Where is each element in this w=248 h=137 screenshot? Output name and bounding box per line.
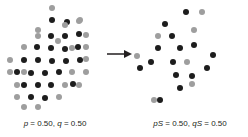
scatter-dot: [49, 17, 55, 23]
scatter-dot: [21, 82, 27, 88]
scatter-dot: [148, 59, 154, 65]
scatter-dot: [62, 82, 68, 88]
scatter-dot: [75, 44, 81, 50]
scatter-dot: [76, 31, 82, 37]
panel-after-selection: pS = 0.50, qS = 0.50: [132, 0, 248, 137]
caption-before-value-q: = 0.50: [62, 119, 87, 128]
scatter-dot: [76, 82, 82, 88]
scatter-dot: [21, 57, 27, 63]
scatter-dot: [210, 52, 216, 58]
scatter-dot: [69, 45, 75, 51]
scatter-dot: [177, 85, 183, 91]
scatter-dot: [134, 53, 140, 59]
scatter-dot: [56, 94, 62, 100]
scatter-dot: [14, 82, 20, 88]
caption-after: pS = 0.50, qS = 0.50: [132, 119, 248, 129]
caption-after-value-qs: = 0.50: [202, 119, 227, 128]
scatter-dot: [183, 9, 189, 15]
scatter-dot: [189, 73, 195, 79]
scatter-dot: [189, 81, 195, 87]
scatter-dot: [76, 18, 82, 24]
scatter-dot: [34, 44, 40, 50]
caption-before: p = 0.50, q = 0.50: [0, 119, 110, 129]
scatter-dot: [83, 56, 89, 62]
scatter-dot: [49, 5, 55, 11]
scatter-dot: [63, 58, 69, 64]
scatter-dot: [191, 27, 197, 33]
scatter-dot: [48, 82, 54, 88]
scatter-dot: [157, 97, 163, 103]
scatter-dot: [35, 82, 41, 88]
scatter-dot: [173, 72, 179, 78]
scatter-dot: [155, 33, 161, 39]
scatter-dot: [35, 104, 41, 110]
scatter-dot: [35, 57, 41, 63]
scatter-dot: [21, 104, 27, 110]
scatter-dot: [83, 32, 89, 38]
scatter-dot: [184, 59, 190, 65]
scatter-dot: [62, 46, 68, 52]
scatter-dot: [55, 38, 61, 44]
scatter-dot: [199, 9, 205, 15]
scatter-dot: [21, 69, 27, 75]
scatter-dot: [177, 45, 183, 51]
scatter-dot: [69, 69, 75, 75]
caption-before-value-p: = 0.50,: [28, 119, 57, 128]
scatter-dot: [21, 44, 27, 50]
scatter-dot: [28, 70, 34, 76]
scatter-dot: [155, 45, 161, 51]
dot-field-after: [132, 0, 248, 115]
scatter-dot: [35, 33, 41, 39]
scatter-dot: [162, 21, 168, 27]
scatter-dot: [191, 42, 197, 48]
scatter-dot: [49, 58, 55, 64]
scatter-dot: [204, 65, 210, 71]
scatter-dot: [28, 94, 34, 100]
scatter-dot: [83, 44, 89, 50]
scatter-dot: [14, 69, 20, 75]
right-arrow-icon: [106, 46, 134, 62]
population-allele-frequency-figure: p = 0.50, q = 0.50 pS = 0.50, qS = 0.50: [0, 0, 248, 137]
caption-after-symbol-ps: pS: [153, 119, 163, 128]
scatter-dot: [83, 69, 89, 75]
scatter-dot: [62, 33, 68, 39]
scatter-dot: [14, 94, 20, 100]
scatter-dot: [169, 33, 175, 39]
scatter-dot: [170, 59, 176, 65]
scatter-dot: [151, 97, 157, 103]
scatter-dot: [62, 22, 68, 28]
scatter-dot: [48, 33, 54, 39]
scatter-dot: [42, 70, 48, 76]
scatter-dot: [56, 69, 62, 75]
scatter-dot: [48, 45, 54, 51]
panel-before-selection: p = 0.50, q = 0.50: [0, 0, 110, 137]
caption-after-symbol-qs: qS: [192, 119, 202, 128]
scatter-dot: [42, 95, 48, 101]
scatter-dot: [7, 57, 13, 63]
scatter-dot: [7, 69, 13, 75]
dot-field-before: [0, 0, 110, 115]
scatter-dot: [137, 65, 143, 71]
caption-after-value-ps: = 0.50,: [163, 119, 192, 128]
